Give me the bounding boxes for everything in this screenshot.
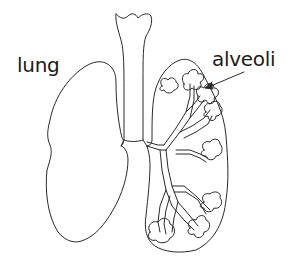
alveoli-clusters <box>148 70 222 243</box>
lung-illustration <box>0 0 296 264</box>
left-lung <box>46 62 128 242</box>
alveoli-cluster-center <box>160 78 178 93</box>
alveoli-cluster-bottom-left <box>148 218 174 242</box>
alveoli-cluster-right-1 <box>204 101 222 120</box>
lung-label: lung <box>17 55 59 75</box>
alveoli-pointer-arrow <box>205 72 244 89</box>
bronchi <box>147 84 212 234</box>
trachea <box>116 14 152 146</box>
alveoli-label: alveoli <box>212 49 275 69</box>
